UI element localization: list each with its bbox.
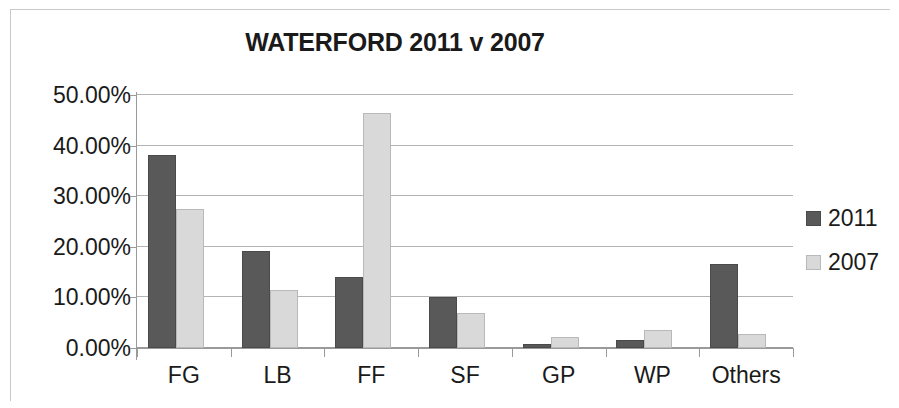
y-axis-tick-mark <box>130 297 137 298</box>
y-axis-tick-label: 30.00% <box>11 183 131 210</box>
y-axis-tick-mark <box>130 247 137 248</box>
chart-title: WATERFORD 2011 v 2007 <box>0 28 790 57</box>
bar-others-2007 <box>738 334 766 348</box>
bar-fg-2011 <box>148 155 176 348</box>
y-axis-tick-label: 50.00% <box>11 82 131 109</box>
x-axis-tick-mark <box>512 349 513 357</box>
chart-legend: 20112007 <box>806 196 894 284</box>
y-axis-tick-mark <box>130 196 137 197</box>
bar-wp-2011 <box>616 340 644 348</box>
y-axis-labels: 50.00%40.00%30.00%20.00%10.00%0.00% <box>5 95 131 348</box>
y-axis-tick-label: 10.00% <box>11 284 131 311</box>
y-axis-tick-mark <box>130 146 137 147</box>
y-axis-tick-mark <box>130 95 137 96</box>
y-axis-tick-label: 0.00% <box>11 335 131 362</box>
x-axis-tick-mark <box>699 349 700 357</box>
x-axis-label-fg: FG <box>168 362 200 389</box>
bar-fg-2007 <box>176 209 204 348</box>
x-axis-tick-mark <box>231 349 232 357</box>
bar-gp-2007 <box>551 337 579 348</box>
bar-others-2011 <box>710 264 738 349</box>
bar-sf-2007 <box>457 313 485 348</box>
bar-lb-2011 <box>242 251 270 348</box>
bar-ff-2011 <box>335 277 363 348</box>
bar-group-sf <box>418 95 512 348</box>
bar-wp-2007 <box>644 330 672 348</box>
bar-sf-2011 <box>429 297 457 348</box>
legend-label-2007: 2007 <box>828 249 879 276</box>
x-axis-label-wp: WP <box>634 362 671 389</box>
x-axis-label-gp: GP <box>542 362 575 389</box>
bars-layer <box>137 95 793 348</box>
bar-group-fg <box>137 95 231 348</box>
chart-frame-top-border <box>10 9 890 10</box>
x-axis-label-lb: LB <box>263 362 291 389</box>
chart-figure: WATERFORD 2011 v 2007 50.00%40.00%30.00%… <box>0 0 899 408</box>
y-axis-tick-label: 40.00% <box>11 132 131 159</box>
x-axis-line <box>136 348 794 349</box>
x-axis-label-sf: SF <box>450 362 479 389</box>
bar-group-ff <box>324 95 418 348</box>
legend-swatch-icon-2011 <box>806 211 821 226</box>
legend-swatch-icon-2007 <box>806 255 821 270</box>
x-axis-tick-mark <box>793 349 794 357</box>
bar-group-gp <box>512 95 606 348</box>
x-axis-tick-mark <box>324 349 325 357</box>
x-axis-label-others: Others <box>712 362 781 389</box>
bar-lb-2007 <box>270 290 298 348</box>
bar-group-others <box>699 95 793 348</box>
bar-group-wp <box>606 95 700 348</box>
x-axis-tick-mark <box>606 349 607 357</box>
x-axis-label-ff: FF <box>357 362 385 389</box>
y-axis-tick-label: 20.00% <box>11 233 131 260</box>
bar-group-lb <box>231 95 325 348</box>
x-axis-tick-mark <box>137 349 138 357</box>
x-axis-tick-mark <box>418 349 419 357</box>
legend-item-2007[interactable]: 2007 <box>806 240 894 284</box>
y-axis-tick-mark <box>130 348 137 349</box>
legend-item-2011[interactable]: 2011 <box>806 196 894 240</box>
bar-ff-2007 <box>363 113 391 348</box>
legend-label-2011: 2011 <box>828 205 877 232</box>
